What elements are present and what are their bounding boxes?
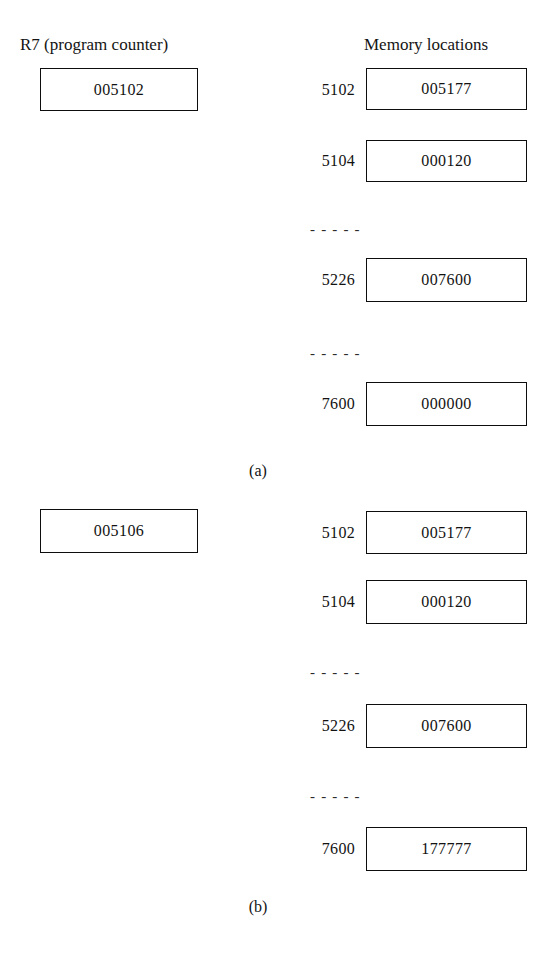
memory-address-label: 5104 [303,152,355,170]
memory-address-label: 5102 [303,81,355,99]
memory-value-box: 005177 [366,68,527,110]
memory-gap-separator: - - - - - [310,348,352,359]
memory-address-label: 7600 [303,395,355,413]
memory-value-box: 007600 [366,704,527,748]
register-value-box-b: 005106 [40,509,198,553]
memory-column-header: Memory locations [364,35,488,55]
panel-label-a: (a) [238,462,278,480]
memory-value-box: 000120 [366,580,527,624]
memory-address-label: 7600 [303,840,355,858]
figure-canvas: R7 (program counter) Memory locations 00… [0,0,557,978]
memory-address-label: 5226 [303,717,355,735]
memory-address-label: 5102 [303,524,355,542]
register-column-header: R7 (program counter) [20,35,168,55]
memory-address-label: 5226 [303,271,355,289]
memory-gap-separator: - - - - - [310,791,352,802]
memory-value-box: 177777 [366,827,527,871]
panel-label-b: (b) [238,898,278,916]
memory-address-label: 5104 [303,593,355,611]
memory-value-box: 000120 [366,140,527,182]
memory-gap-separator: - - - - - [310,667,352,678]
register-value-box-a: 005102 [40,68,198,111]
memory-value-box: 000000 [366,382,527,426]
memory-value-box: 005177 [366,511,527,554]
memory-value-box: 007600 [366,258,527,302]
memory-gap-separator: - - - - - [310,224,352,235]
